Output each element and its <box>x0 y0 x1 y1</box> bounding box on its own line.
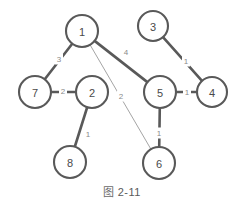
edge-weight-label: 1 <box>184 57 189 66</box>
figure-caption: 图2-11 <box>0 183 244 199</box>
node-label-2: 2 <box>89 87 95 99</box>
node-label-4: 4 <box>209 87 215 99</box>
graph-node-4[interactable]: 4 <box>197 77 227 107</box>
node-label-7: 7 <box>32 87 38 99</box>
graph-canvas: 34221111 12345678 <box>0 0 244 206</box>
graph-node-7[interactable]: 7 <box>19 76 51 108</box>
caption-glyph: 图 <box>103 183 115 199</box>
node-label-6: 6 <box>156 158 162 170</box>
edge-weight-label: 3 <box>57 55 62 64</box>
graph-node-2[interactable]: 2 <box>76 76 108 108</box>
graph-node-3[interactable]: 3 <box>138 11 168 41</box>
node-label-5: 5 <box>157 87 163 99</box>
node-label-3: 3 <box>150 21 156 33</box>
edge-weight-label: 1 <box>86 130 91 139</box>
graph-node-1[interactable]: 1 <box>66 15 98 47</box>
edge-weight-5-4: 1 <box>183 87 191 98</box>
graph-edge-1-5 <box>95 41 148 82</box>
edge-weight-1-7: 3 <box>55 54 63 65</box>
graph-node-5[interactable]: 5 <box>144 76 176 108</box>
graph-edge-2-8 <box>75 107 87 146</box>
edge-weight-label: 1 <box>157 129 162 138</box>
caption-number: 2-11 <box>118 186 141 198</box>
edge-weight-label: 2 <box>119 92 124 101</box>
graph-node-8[interactable]: 8 <box>54 146 86 178</box>
edge-weight-7-2: 2 <box>59 86 67 97</box>
figure-container: 34221111 12345678 图2-11 <box>0 0 244 206</box>
edge-weight-label: 1 <box>185 88 190 97</box>
node-label-1: 1 <box>79 26 85 38</box>
edge-weight-1-6: 2 <box>117 91 125 102</box>
edge-weight-label: 4 <box>124 48 129 57</box>
node-label-8: 8 <box>67 157 73 169</box>
edge-weight-label: 2 <box>61 87 66 96</box>
edge-weight-5-6: 1 <box>155 128 163 139</box>
graph-node-6[interactable]: 6 <box>143 147 175 179</box>
edge-weight-2-8: 1 <box>84 129 92 140</box>
edge-weight-3-4: 1 <box>182 56 190 67</box>
edge-weight-1-5: 4 <box>122 47 130 58</box>
